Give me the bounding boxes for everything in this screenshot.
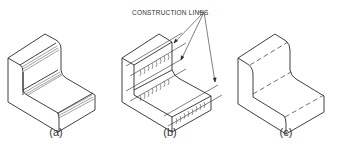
construction-lines-label: CONSTRUCTION LINES [132, 9, 209, 16]
figure-a: (a) [0, 0, 114, 158]
caption-a: (a) [36, 126, 76, 138]
caption-b: (b) [150, 126, 190, 138]
figure-c: (c) [228, 0, 341, 158]
figure-b: (b) [114, 0, 228, 158]
caption-c: (c) [266, 126, 306, 138]
